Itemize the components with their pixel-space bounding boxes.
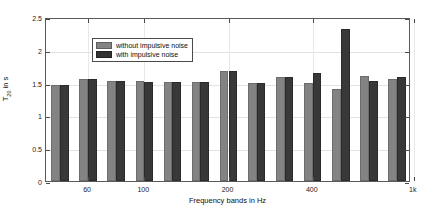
bar-series-0-category-0 bbox=[51, 85, 60, 181]
bar-series-0-category-6 bbox=[220, 71, 229, 181]
bar-series-1-category-10 bbox=[341, 29, 350, 181]
x-axis-tick-label: 60 bbox=[83, 186, 91, 193]
y-axis-tick-right bbox=[405, 150, 409, 151]
x-axis-title: Frequency bands in Hz bbox=[45, 197, 410, 205]
y-axis-tick-right bbox=[405, 19, 409, 20]
y-axis-tick-label: 1 bbox=[38, 113, 42, 120]
legend-item-without-impulsive-noise: without impulsive noise bbox=[96, 41, 188, 50]
y-axis-tick bbox=[46, 85, 50, 86]
legend-label-series-1: with impulsive noise bbox=[116, 51, 178, 58]
bar-series-0-category-4 bbox=[164, 82, 173, 181]
bar-series-1-category-5 bbox=[200, 82, 209, 181]
x-axis-tick-top bbox=[88, 19, 89, 23]
legend-label-series-0: without impulsive noise bbox=[116, 42, 188, 49]
bar-series-1-category-11 bbox=[369, 81, 378, 181]
x-axis-tick-label: 400 bbox=[306, 186, 318, 193]
y-axis-tick-label: 0 bbox=[38, 179, 42, 186]
legend-swatch-icon-series-0 bbox=[96, 42, 112, 49]
bar-series-0-category-7 bbox=[248, 83, 257, 181]
bar-series-1-category-9 bbox=[313, 73, 322, 181]
y-axis-title: T20 in s bbox=[2, 59, 12, 119]
y-axis-tick-right bbox=[405, 52, 409, 53]
chart-figure: 00.511.522.5 T20 in s without impulsive … bbox=[0, 0, 424, 212]
x-axis-tick-top bbox=[229, 19, 230, 23]
bar-series-0-category-2 bbox=[107, 81, 116, 181]
bar-series-0-category-3 bbox=[136, 81, 145, 181]
y-axis-tick-label: 2 bbox=[38, 47, 42, 54]
y-axis-title-base: T bbox=[1, 97, 10, 102]
legend-swatch-icon-series-1 bbox=[96, 51, 112, 58]
gridline-vertical bbox=[414, 19, 415, 181]
y-axis-tick-label: 2.5 bbox=[32, 15, 42, 22]
bar-series-0-category-12 bbox=[388, 79, 397, 181]
x-axis-tick-top bbox=[313, 19, 314, 23]
bar-series-0-category-5 bbox=[192, 82, 201, 181]
bar-series-0-category-11 bbox=[360, 76, 369, 181]
x-axis-tick bbox=[313, 177, 314, 181]
bar-series-1-category-2 bbox=[116, 81, 125, 181]
bar-series-1-category-0 bbox=[60, 85, 69, 181]
x-axis-tick bbox=[144, 177, 145, 181]
x-axis-tick-label: 100 bbox=[137, 186, 149, 193]
y-axis-tick bbox=[46, 19, 50, 20]
y-axis-tick-label: 0.5 bbox=[32, 146, 42, 153]
x-axis-tick-label: 1k bbox=[409, 186, 416, 193]
x-axis-tick bbox=[88, 177, 89, 181]
y-axis-tick-right bbox=[405, 183, 409, 184]
bar-series-0-category-9 bbox=[304, 83, 313, 181]
y-axis-tick bbox=[46, 52, 50, 53]
y-axis-title-unit: in s bbox=[1, 77, 10, 91]
bar-series-0-category-10 bbox=[332, 89, 341, 181]
y-axis-tick-right bbox=[405, 85, 409, 86]
x-axis-tick-top bbox=[414, 19, 415, 23]
legend-item-with-impulsive-noise: with impulsive noise bbox=[96, 50, 188, 59]
bar-series-1-category-3 bbox=[144, 82, 153, 181]
plot-area: without impulsive noise with impulsive n… bbox=[45, 18, 410, 182]
x-axis-tick bbox=[229, 177, 230, 181]
y-axis-tick bbox=[46, 117, 50, 118]
y-axis-tick-right bbox=[405, 117, 409, 118]
bar-series-1-category-7 bbox=[257, 83, 266, 181]
y-axis-tick-label: 1.5 bbox=[32, 80, 42, 87]
bar-series-0-category-1 bbox=[79, 79, 88, 181]
chart-legend: without impulsive noise with impulsive n… bbox=[92, 38, 193, 62]
y-axis-tick bbox=[46, 183, 50, 184]
x-axis-tick-top bbox=[144, 19, 145, 23]
bar-series-1-category-4 bbox=[172, 82, 181, 181]
bar-series-1-category-12 bbox=[397, 77, 406, 181]
bar-series-0-category-8 bbox=[276, 77, 285, 181]
bar-series-1-category-8 bbox=[285, 77, 294, 181]
y-axis-tick bbox=[46, 150, 50, 151]
x-axis-tick-label: 200 bbox=[222, 186, 234, 193]
x-axis-tick bbox=[414, 177, 415, 181]
bar-series-1-category-1 bbox=[88, 79, 97, 181]
bar-series-1-category-6 bbox=[229, 71, 238, 181]
y-axis-title-subscript: 20 bbox=[6, 91, 12, 97]
